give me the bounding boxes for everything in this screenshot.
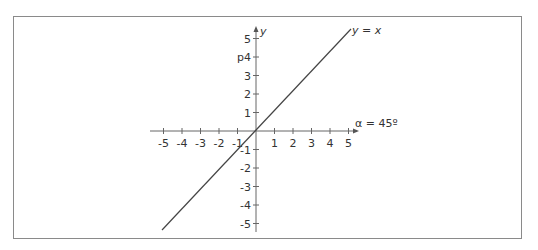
x-tick-label: -5 <box>158 137 169 150</box>
y-tick-label: -4 <box>240 199 251 212</box>
y-tick-label: 3 <box>244 70 251 83</box>
x-tick-label: 3 <box>308 137 315 150</box>
chart-svg: -5 -4 -3 -2 -1 1 2 3 4 5 5 p4 3 2 1 -1 -… <box>0 0 538 250</box>
angle-label: α = 45º <box>355 117 398 130</box>
y-tick-label: p4 <box>237 51 251 64</box>
y-tick-label: 2 <box>244 88 251 101</box>
y-tick-label: -3 <box>240 181 251 194</box>
y-tick-label: -5 <box>240 218 251 231</box>
y-tick-label: -2 <box>240 162 251 175</box>
x-tick-label: -3 <box>195 137 206 150</box>
x-tick-label: -2 <box>214 137 225 150</box>
x-tick-label: 1 <box>271 137 278 150</box>
y-tick-label: 5 <box>244 33 251 46</box>
x-tick-label: 4 <box>327 137 334 150</box>
y-axis-arrow-icon <box>254 26 259 32</box>
y-tick-label: 1 <box>244 107 251 120</box>
x-tick-label: 5 <box>345 137 352 150</box>
x-tick-label: -4 <box>177 137 188 150</box>
line-label: y = x <box>351 24 382 37</box>
y-axis-label: y <box>259 25 267 38</box>
x-tick-label: 2 <box>290 137 297 150</box>
